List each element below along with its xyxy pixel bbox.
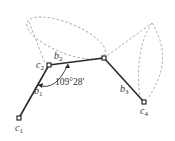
label-c1: c1 bbox=[15, 122, 23, 135]
bond-b3 bbox=[104, 58, 144, 102]
chain-diagram: c1 c2 c4 b1 b2 b3 109°28′ bbox=[0, 0, 175, 141]
label-c2: c2 bbox=[36, 59, 44, 72]
atom-c2 bbox=[47, 63, 51, 67]
label-c4: c4 bbox=[140, 105, 148, 118]
rotation-cone-right bbox=[104, 23, 163, 98]
atom-c4 bbox=[142, 100, 146, 104]
bond-angle-label: 109°28′ bbox=[55, 77, 85, 87]
label-b2: b2 bbox=[54, 50, 63, 63]
atom-c3 bbox=[102, 56, 106, 60]
atom-c1 bbox=[17, 116, 21, 120]
